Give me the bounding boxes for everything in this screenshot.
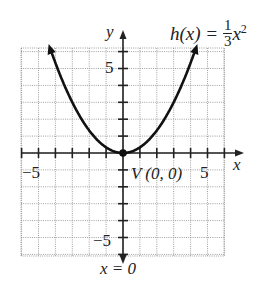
x-tick-label-5: 5 (200, 164, 209, 181)
y-tick-label-5: 5 (105, 59, 114, 76)
axes (21, 30, 244, 264)
y-tick-label-neg5: −5 (93, 232, 111, 249)
axis-of-symmetry-label: x = 0 (100, 260, 136, 277)
x-tick-label-neg5: −5 (22, 164, 40, 181)
function-label: h(x) = 1 3 x2 (170, 20, 247, 51)
function-name: h(x) = (170, 23, 223, 44)
fraction-denominator: 3 (223, 34, 233, 49)
vertex-label: V (0, 0) (131, 165, 182, 182)
fraction-numerator: 1 (223, 18, 233, 34)
x-axis-label: x (233, 156, 241, 173)
function-variable: x (232, 23, 240, 44)
y-axis-label: y (106, 23, 114, 40)
fraction: 1 3 (223, 18, 233, 49)
function-exponent: 2 (241, 22, 247, 36)
vertex-point (119, 149, 127, 157)
